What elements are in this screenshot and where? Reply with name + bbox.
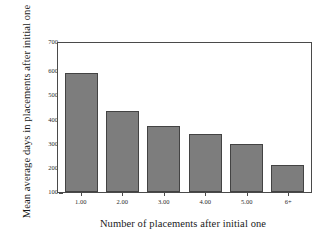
x-tick-mark-1 bbox=[81, 193, 82, 196]
bar-1[interactable] bbox=[65, 73, 98, 192]
y-axis-title: Mean average days in placements after in… bbox=[18, 4, 36, 219]
x-tick-mark-6 bbox=[288, 193, 289, 196]
plot-area bbox=[57, 42, 312, 193]
x-tick-label-6: 6+ bbox=[272, 198, 305, 206]
x-tick-3: 3.00 bbox=[147, 193, 180, 213]
x-tick-mark-2 bbox=[122, 193, 123, 196]
x-tick-2: 2.00 bbox=[106, 193, 139, 213]
x-tick-label-1: 1.00 bbox=[64, 198, 97, 206]
x-axis-ticks: 1.00 2.00 3.00 4.00 5.00 6+ bbox=[57, 193, 312, 213]
x-tick-mark-3 bbox=[164, 193, 165, 196]
x-axis-title: Number of placements after initial one bbox=[40, 217, 326, 231]
x-tick-label-2: 2.00 bbox=[106, 198, 139, 206]
x-tick-6: 6+ bbox=[272, 193, 305, 213]
bar-5[interactable] bbox=[230, 144, 263, 192]
bar-3[interactable] bbox=[147, 126, 180, 192]
bar-series bbox=[58, 43, 311, 192]
x-tick-4: 4.00 bbox=[189, 193, 222, 213]
x-tick-5: 5.00 bbox=[230, 193, 263, 213]
x-tick-1: 1.00 bbox=[64, 193, 97, 213]
x-tick-mark-5 bbox=[247, 193, 248, 196]
x-tick-label-4: 4.00 bbox=[189, 198, 222, 206]
x-tick-label-3: 3.00 bbox=[147, 198, 180, 206]
bar-6[interactable] bbox=[271, 165, 304, 192]
bar-2[interactable] bbox=[106, 111, 139, 192]
x-tick-mark-4 bbox=[205, 193, 206, 196]
bar-chart-figure: Mean average days in placements after in… bbox=[0, 0, 326, 237]
x-tick-label-5: 5.00 bbox=[230, 198, 263, 206]
bar-4[interactable] bbox=[189, 134, 222, 192]
